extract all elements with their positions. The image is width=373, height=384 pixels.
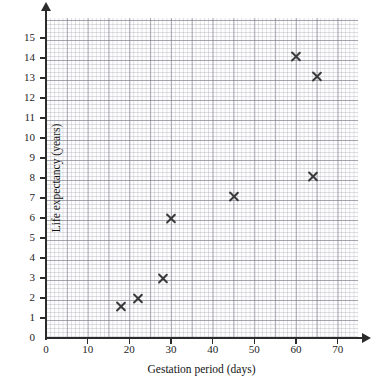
- y-tick: [40, 77, 46, 78]
- y-tick-label: 11: [9, 112, 35, 123]
- y-tick-label: 13: [9, 72, 35, 83]
- x-axis-title: Gestation period (days): [0, 363, 373, 375]
- y-tick: [40, 177, 46, 178]
- x-tick-label: 20: [114, 344, 144, 355]
- data-point-marker: [165, 212, 178, 225]
- y-tick-label: 3: [9, 272, 35, 283]
- y-tick-label: 14: [9, 52, 35, 63]
- y-tick: [40, 317, 46, 318]
- data-point-marker: [131, 292, 144, 305]
- x-tick-label: 60: [281, 344, 311, 355]
- y-axis-arrow-icon: [41, 2, 51, 11]
- x-axis-line: [46, 337, 365, 339]
- y-tick-label: 8: [9, 172, 35, 183]
- y-tick: [40, 257, 46, 258]
- scatter-chart: 0123456789101112131415 010203040506070 G…: [0, 0, 373, 384]
- y-tick-label: 0: [9, 332, 35, 343]
- y-tick-label: 5: [9, 232, 35, 243]
- data-point-marker: [310, 70, 323, 83]
- y-tick: [40, 217, 46, 218]
- y-tick: [40, 197, 46, 198]
- data-point-marker: [290, 50, 303, 63]
- y-tick-label: 1: [9, 312, 35, 323]
- y-tick: [40, 297, 46, 298]
- y-axis-title: Life expectancy (years): [50, 124, 62, 233]
- x-tick-label: 70: [323, 344, 353, 355]
- y-tick-label: 4: [9, 252, 35, 263]
- y-tick: [40, 157, 46, 158]
- x-tick-label: 10: [73, 344, 103, 355]
- x-tick-label: 30: [156, 344, 186, 355]
- y-tick: [40, 97, 46, 98]
- x-tick-label: 0: [31, 344, 61, 355]
- data-point-marker: [227, 190, 240, 203]
- y-tick-label: 12: [9, 92, 35, 103]
- x-axis-arrow-icon: [362, 333, 371, 343]
- y-tick: [40, 117, 46, 118]
- y-tick-label: 2: [9, 292, 35, 303]
- y-tick-label: 10: [9, 132, 35, 143]
- y-tick: [40, 37, 46, 38]
- data-point-marker: [156, 272, 169, 285]
- data-point-marker: [115, 300, 128, 313]
- x-tick-label: 50: [239, 344, 269, 355]
- data-point-marker: [306, 170, 319, 183]
- y-tick: [40, 137, 46, 138]
- y-tick-label: 15: [9, 32, 35, 43]
- y-tick-label: 9: [9, 152, 35, 163]
- y-tick-label: 6: [9, 212, 35, 223]
- x-tick-label: 40: [198, 344, 228, 355]
- y-tick: [40, 57, 46, 58]
- y-tick: [40, 237, 46, 238]
- y-tick-label: 7: [9, 192, 35, 203]
- y-tick: [40, 277, 46, 278]
